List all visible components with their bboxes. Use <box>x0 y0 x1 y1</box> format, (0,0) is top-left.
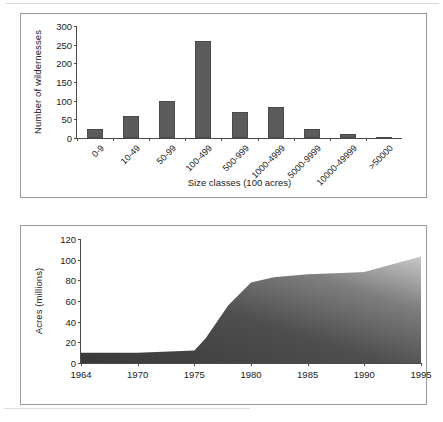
bar-chart-x-tickmark <box>185 138 186 141</box>
bar-chart-x-axis-line <box>76 138 402 139</box>
area-chart-x-tick-label: 1985 <box>288 369 328 380</box>
area-chart-x-tickmark <box>138 363 139 366</box>
area-chart-x-tickmark <box>421 363 422 366</box>
bar-chart-y-tickmark <box>74 82 77 83</box>
bar-chart-y-tickmark <box>74 26 77 27</box>
area-chart-y-tickmark <box>78 280 81 281</box>
area-chart-x-tickmark <box>194 363 195 366</box>
bar-chart-x-tickmark <box>366 138 367 141</box>
area-chart-y-tickmark <box>78 342 81 343</box>
area-chart-x-tickmark <box>81 363 82 366</box>
area-chart-y-tickmark <box>78 322 81 323</box>
area-chart-y-tickmark <box>78 301 81 302</box>
area-chart-y-tick-label: 80 <box>21 276 76 286</box>
area-chart-y-tickmark <box>78 239 81 240</box>
area-chart-x-tickmark <box>251 363 252 366</box>
bar-chart-y-tick-label: 250 <box>21 41 72 51</box>
area-chart-x-tick-label: 1964 <box>61 369 101 380</box>
bar-chart-x-axis-title: Size classes (100 acres) <box>77 177 402 188</box>
bar-chart-x-tickmark <box>330 138 331 141</box>
bar-chart-y-tick-label: 300 <box>21 22 72 32</box>
area-chart-x-tick-label: 1975 <box>174 369 214 380</box>
area-chart-y-tick-label: 60 <box>21 297 76 307</box>
bar-chart-bar <box>159 101 175 138</box>
area-chart-x-tickmark <box>308 363 309 366</box>
bar-chart-x-tickmark <box>149 138 150 141</box>
area-chart-x-tick-label: 1980 <box>231 369 271 380</box>
area-chart-y-tick-label: 0 <box>21 359 76 369</box>
bar-chart-x-tickmark <box>294 138 295 141</box>
bar-chart-bar <box>376 137 392 139</box>
area-chart-x-tick-label: 1995 <box>401 369 441 380</box>
bar-chart-y-tick-label: 100 <box>21 97 72 107</box>
area-chart-figure: Acres (millions) 020406080100120 196 <box>20 225 427 405</box>
area-chart-x-tickmark <box>364 363 365 366</box>
bar-chart-bar <box>123 116 139 138</box>
scan-artifact-bottom <box>4 408 250 409</box>
area-chart-y-tick-label: 100 <box>21 256 76 266</box>
bar-chart-x-tickmark <box>221 138 222 141</box>
bar-chart-bar <box>232 112 248 138</box>
bar-chart-y-tickmark <box>74 63 77 64</box>
bar-chart-y-tick-label: 50 <box>21 115 72 125</box>
area-chart-series-fill <box>81 239 421 363</box>
area-chart-y-tick-label: 40 <box>21 318 76 328</box>
area-chart-y-tickmark <box>78 260 81 261</box>
bar-chart-y-tickmark <box>74 45 77 46</box>
bar-chart-bar <box>304 129 320 138</box>
bar-chart-bar <box>268 107 284 138</box>
bar-chart-figure: Number of wildernesses 05010015020025030… <box>20 13 427 198</box>
area-chart-plot-area <box>81 239 421 363</box>
bar-chart-y-tickmark <box>74 101 77 102</box>
area-chart-y-tick-label: 120 <box>21 235 76 245</box>
bar-chart-y-tick-label: 150 <box>21 78 72 88</box>
bar-chart-bar <box>340 134 356 138</box>
bar-chart-bar <box>195 41 211 138</box>
bar-chart-plot-area <box>77 26 402 138</box>
bar-chart-y-tickmark <box>74 119 77 120</box>
scan-artifact-top <box>6 3 439 4</box>
area-chart-x-tick-label: 1970 <box>118 369 158 380</box>
bar-chart-y-tick-label: 200 <box>21 59 72 69</box>
bar-chart-y-tick-label: 0 <box>21 134 72 144</box>
bar-chart-bar <box>87 129 103 138</box>
figure-page: Number of wildernesses 05010015020025030… <box>0 0 443 422</box>
area-chart-x-tick-label: 1990 <box>344 369 384 380</box>
bar-chart-x-tickmark <box>77 138 78 141</box>
area-chart-y-tick-label: 20 <box>21 338 76 348</box>
bar-chart-x-tickmark <box>258 138 259 141</box>
bar-chart-x-tickmark <box>113 138 114 141</box>
